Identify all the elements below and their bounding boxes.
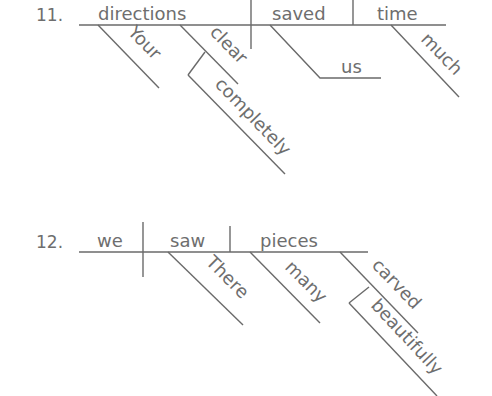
modifier-clear: clear: [206, 21, 252, 68]
sentence-diagrams: 11. directions saved time Your clear com…: [0, 0, 492, 396]
diagram-number: 11.: [36, 5, 63, 25]
modifier-completely: completely: [211, 73, 296, 160]
indirect-object-line: [270, 25, 381, 78]
branch-line-beautifully: [349, 287, 369, 303]
modifier-there: There: [201, 250, 253, 302]
verb-word: saved: [272, 3, 326, 24]
verb-word: saw: [170, 230, 205, 251]
modifier-many: many: [281, 256, 332, 307]
object-word: pieces: [260, 230, 318, 251]
indirect-object-us: us: [341, 56, 362, 77]
subject-word: we: [97, 230, 123, 251]
modifier-much: much: [417, 28, 467, 79]
subject-word: directions: [98, 3, 186, 24]
diagram-11: 11. directions saved time Your clear com…: [36, 0, 467, 174]
branch-line-completely: [188, 52, 205, 75]
diagram-12: 12. we saw pieces There many carved beau…: [36, 222, 448, 396]
object-word: time: [377, 3, 418, 24]
diagram-number: 12.: [36, 232, 63, 252]
